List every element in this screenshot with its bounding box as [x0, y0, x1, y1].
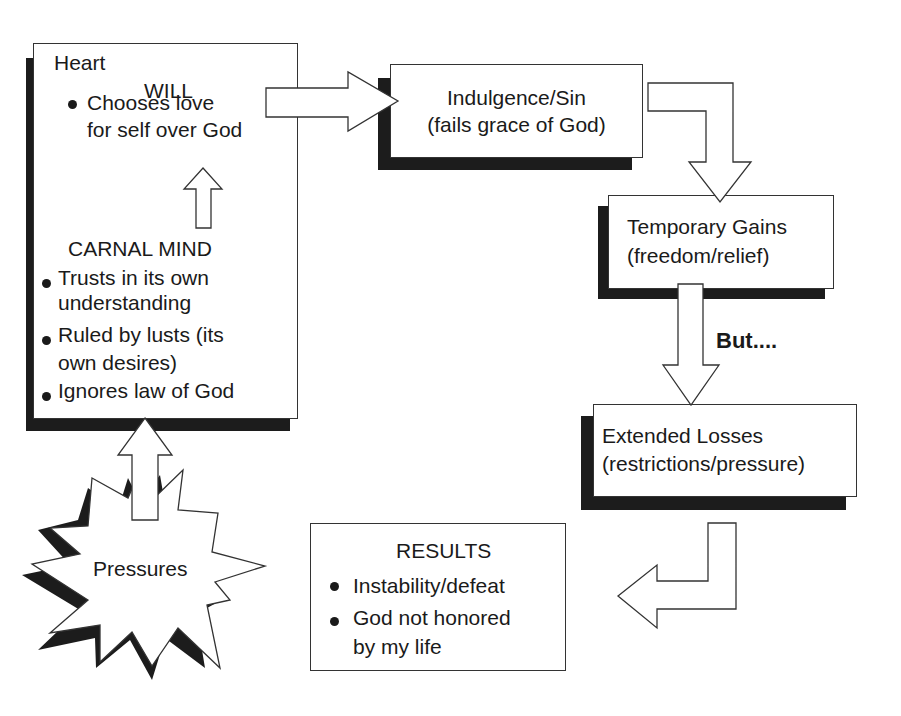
arrow-losses-to-results	[618, 523, 736, 628]
arrow-indulgence-to-gains	[648, 83, 751, 202]
pressures-label: Pressures	[93, 556, 188, 581]
arrow-gains-to-losses	[663, 284, 719, 405]
arrow-heart-to-indulgence	[266, 72, 398, 131]
arrow-carnal-to-will	[184, 168, 222, 228]
diagram-connectors	[0, 0, 901, 716]
